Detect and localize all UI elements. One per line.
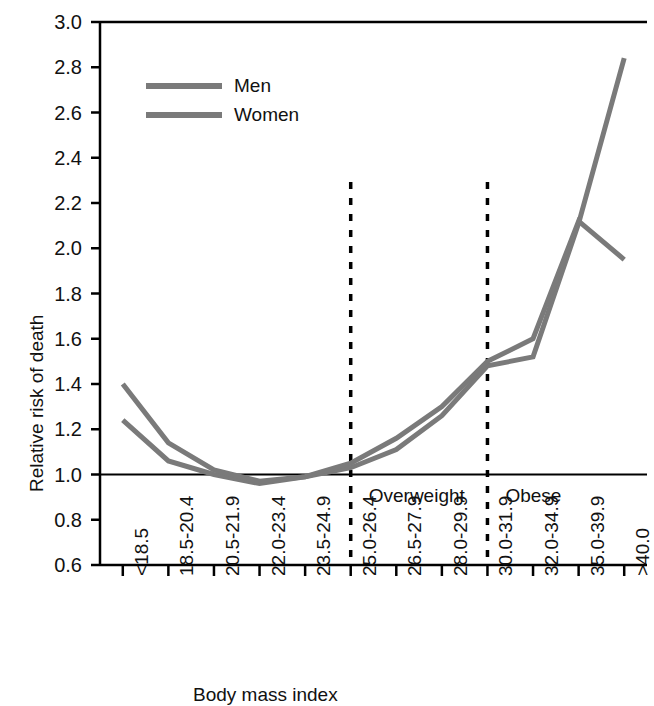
x-tick-label: 25.0-26.4	[359, 496, 381, 576]
y-tick-label: 0.6	[24, 554, 82, 577]
y-tick-label: 3.0	[24, 11, 82, 34]
x-tick-label: 35.0-39.9	[587, 496, 609, 576]
x-tick-label: 22.0-23.4	[268, 496, 290, 576]
legend-label-women: Women	[234, 104, 299, 126]
x-tick-label: 30.0-31.9	[495, 496, 517, 576]
y-tick-label: 1.0	[24, 463, 82, 486]
x-tick-label: 26.5-27.9	[404, 496, 426, 576]
y-tick-label: 0.8	[24, 508, 82, 531]
x-tick-label: >40.0	[632, 528, 654, 576]
legend-swatches	[146, 86, 222, 115]
x-axis-title: Body mass index	[193, 684, 338, 706]
x-tick-label: 32.0-34.9	[541, 496, 563, 576]
x-tick-label: 18.5-20.4	[176, 496, 198, 576]
x-tick-label: 28.0-29.9	[450, 496, 472, 576]
y-tick-label: 1.2	[24, 418, 82, 441]
legend-label-men: Men	[234, 75, 271, 97]
x-tick-label: 20.5-21.9	[222, 496, 244, 576]
zone-label: Overweight	[369, 485, 465, 507]
y-tick-label: 2.8	[24, 56, 82, 79]
plot-frame	[100, 22, 647, 565]
x-tick-label: 23.5-24.9	[313, 496, 335, 576]
y-tick-label: 2.6	[24, 101, 82, 124]
y-tick-label: 1.6	[24, 327, 82, 350]
y-tick-label: 2.0	[24, 237, 82, 260]
zone-label: Obese	[505, 485, 561, 507]
data-series	[123, 58, 624, 483]
y-tick-label: 2.4	[24, 146, 82, 169]
y-tick-label: 1.4	[24, 373, 82, 396]
y-tick-label: 1.8	[24, 282, 82, 305]
x-tick-label: <18.5	[131, 528, 153, 576]
y-tick-label: 2.2	[24, 192, 82, 215]
